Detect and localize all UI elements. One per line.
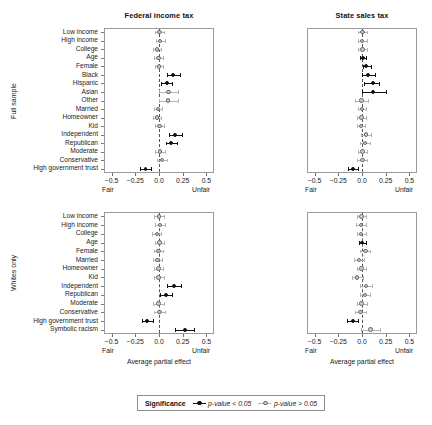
axis-tick	[159, 334, 160, 337]
confidence-interval-cap	[155, 31, 156, 35]
point-estimate	[360, 158, 364, 162]
confidence-interval-cap	[162, 258, 163, 262]
row-label: College	[0, 46, 98, 53]
axis-high-label: Unfair	[395, 186, 413, 193]
point-estimate	[156, 301, 160, 305]
row-label: High income	[0, 222, 98, 229]
panel-title-state-sales-tax: State sales tax	[307, 11, 417, 20]
axis-tick	[409, 173, 410, 176]
point-estimate	[158, 149, 162, 153]
confidence-interval-cap	[366, 107, 367, 111]
row-tick	[101, 321, 104, 322]
confidence-interval-cap	[164, 124, 165, 128]
axis-tick	[135, 173, 136, 176]
point-estimate	[157, 240, 161, 244]
axis-title: Average partial effect	[307, 358, 417, 365]
confidence-interval-cap	[160, 293, 161, 297]
confidence-interval-cap	[155, 241, 156, 245]
confidence-interval-cap	[364, 258, 365, 262]
row-tick	[101, 152, 104, 153]
confidence-interval-cap	[358, 167, 359, 171]
confidence-interval-cap	[159, 99, 160, 103]
confidence-interval-cap	[362, 73, 363, 77]
confidence-interval-cap	[360, 284, 361, 288]
row-tick	[101, 66, 104, 67]
row-label: Independent	[0, 283, 98, 290]
confidence-interval-cap	[165, 39, 166, 43]
confidence-interval-cap	[360, 142, 361, 146]
confidence-interval-cap	[154, 215, 155, 219]
forest-plot-figure: Federal income taxState sales taxFull sa…	[0, 0, 432, 425]
row-tick	[101, 135, 104, 136]
confidence-interval-cap	[364, 82, 365, 86]
point-estimate	[360, 149, 364, 153]
point-estimate	[366, 73, 370, 77]
axis-low-label: Fair	[305, 186, 317, 193]
confidence-interval-cap	[153, 319, 154, 323]
confidence-interval-cap	[361, 133, 362, 137]
confidence-interval-cap	[357, 267, 358, 271]
row-tick	[101, 83, 104, 84]
confidence-interval-cap	[358, 319, 359, 323]
point-estimate	[157, 214, 161, 218]
legend-item-label: p-value < 0.05	[208, 400, 251, 407]
confidence-interval-cap	[178, 99, 179, 103]
row-label: Republican	[0, 291, 98, 298]
confidence-interval-cap	[379, 82, 380, 86]
confidence-interval-cap	[153, 116, 154, 120]
confidence-interval-cap	[368, 99, 369, 103]
confidence-interval-cap	[370, 293, 371, 297]
confidence-interval-cap	[180, 73, 181, 77]
confidence-interval-cap	[163, 65, 164, 69]
row-tick	[101, 225, 104, 226]
row-tick	[101, 169, 104, 170]
point-estimate	[156, 266, 160, 270]
row-label: High government trust	[0, 165, 98, 172]
axis-tick	[338, 334, 339, 337]
confidence-interval-cap	[360, 250, 361, 254]
point-estimate	[360, 47, 364, 51]
row-tick	[101, 304, 104, 305]
confidence-interval-cap	[357, 116, 358, 120]
confidence-interval-cap	[371, 65, 372, 69]
point-estimate	[155, 258, 159, 262]
confidence-interval-cap	[165, 311, 166, 315]
row-tick	[101, 126, 104, 127]
row-tick	[101, 58, 104, 59]
point-estimate	[156, 249, 160, 253]
point-estimate	[166, 90, 170, 94]
axis-high-label: Unfair	[192, 347, 210, 354]
axis-tick	[183, 173, 184, 176]
axis-tick	[206, 334, 207, 337]
axis-low-label: Fair	[102, 347, 114, 354]
axis-high-label: Unfair	[395, 347, 413, 354]
confidence-interval-cap	[140, 167, 141, 171]
point-estimate	[164, 293, 168, 297]
confidence-interval-cap	[167, 73, 168, 77]
confidence-interval-cap	[153, 48, 154, 52]
row-label: Moderate	[0, 148, 98, 155]
confidence-interval-cap	[152, 232, 153, 236]
row-tick	[101, 330, 104, 331]
confidence-interval-cap	[181, 284, 182, 288]
axis-title: Average partial effect	[104, 358, 214, 365]
axis-tick	[338, 173, 339, 176]
confidence-interval-cap	[142, 319, 143, 323]
confidence-interval-cap	[156, 39, 157, 43]
confidence-interval-cap	[155, 124, 156, 128]
confidence-interval-cap	[357, 159, 358, 163]
point-estimate	[156, 56, 160, 60]
point-estimate	[165, 81, 169, 85]
axis-tick	[315, 334, 316, 337]
confidence-interval-cap	[358, 39, 359, 43]
confidence-interval-cap	[360, 293, 361, 297]
point-estimate	[361, 56, 365, 60]
axis-tick	[112, 334, 113, 337]
axis-tick	[206, 173, 207, 176]
row-tick	[101, 92, 104, 93]
confidence-interval-cap	[153, 302, 154, 306]
row-tick	[101, 75, 104, 76]
row-label: Homeowner	[0, 265, 98, 272]
zero-reference-line	[159, 213, 160, 333]
confidence-interval-cap	[194, 328, 195, 332]
